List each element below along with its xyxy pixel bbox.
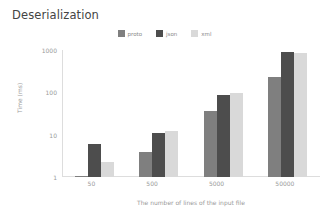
bar-group xyxy=(204,50,243,177)
bar-xml xyxy=(101,162,114,177)
bar-group xyxy=(139,50,178,177)
y-tick-label: 100 xyxy=(46,89,57,96)
legend-label: json xyxy=(166,31,177,37)
y-tick-label: 1000 xyxy=(42,47,57,54)
x-tick-label: 5000 xyxy=(209,180,224,187)
y-axis-title: Time (ms) xyxy=(16,83,23,113)
x-tick-label: 50000 xyxy=(275,180,294,187)
x-axis-title: The number of lines of the input file xyxy=(62,199,320,206)
bar-json xyxy=(152,133,165,177)
plot-area: 1000 100 10 1 xyxy=(62,50,320,177)
legend-swatch-icon xyxy=(118,30,125,37)
bar-groups xyxy=(62,50,320,177)
bar-proto xyxy=(75,176,88,177)
legend-item-xml: xml xyxy=(191,30,211,37)
bar-json xyxy=(217,95,230,177)
chart-legend: proto json xml xyxy=(0,30,329,37)
bar-proto xyxy=(268,77,281,177)
chart-title: Deserialization xyxy=(12,8,99,22)
bar-group xyxy=(268,50,307,177)
bar-proto xyxy=(204,111,217,177)
bar-xml xyxy=(230,93,243,177)
bar-xml xyxy=(165,131,178,177)
x-tick-label: 50 xyxy=(88,180,96,187)
y-tick-label: 10 xyxy=(49,131,57,138)
deserialization-bar-chart: Deserialization proto json xml Time (ms)… xyxy=(0,0,329,222)
x-axis-ticks: 50 500 5000 50000 xyxy=(62,180,320,187)
legend-swatch-icon xyxy=(156,30,163,37)
legend-swatch-icon xyxy=(191,30,198,37)
x-tick-label: 500 xyxy=(146,180,157,187)
bar-json xyxy=(88,144,101,177)
legend-item-json: json xyxy=(156,30,177,37)
bar-json xyxy=(281,52,294,177)
legend-label: proto xyxy=(128,31,143,37)
bar-group xyxy=(75,50,114,177)
bar-xml xyxy=(294,53,307,177)
legend-label: xml xyxy=(201,31,211,37)
bar-proto xyxy=(139,152,152,177)
legend-item-proto: proto xyxy=(118,30,143,37)
y-tick-label: 1 xyxy=(53,174,57,181)
